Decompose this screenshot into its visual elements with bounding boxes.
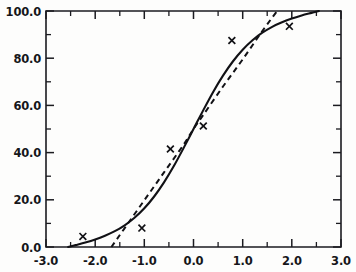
x-tick-label: 1.0 xyxy=(233,254,253,268)
series-layer xyxy=(68,11,319,247)
x-tick-label: -3.0 xyxy=(34,254,59,268)
x-tick-label: -1.0 xyxy=(132,254,157,268)
y-tick-label: 40.0 xyxy=(13,146,41,160)
plot-canvas: 100.0 80.0 60.0 40.0 20.0 0.0 -3.0 -2.0 … xyxy=(0,0,356,272)
data-point-marker xyxy=(138,225,145,232)
x-tick-label: 0.0 xyxy=(184,254,204,268)
data-point-marker xyxy=(167,146,174,153)
y-axis-ticks xyxy=(46,11,54,247)
x-tick-label: 2.0 xyxy=(282,254,302,268)
x-tick-label: 3.0 xyxy=(331,254,351,268)
x-tick-labels: -3.0 -2.0 -1.0 0.0 1.0 2.0 3.0 xyxy=(34,254,351,268)
y-tick-label: 20.0 xyxy=(13,193,41,207)
data-point-marker xyxy=(79,233,86,240)
y-tick-label: 100.0 xyxy=(6,5,42,19)
data-point-marker xyxy=(228,37,235,44)
y-tick-label: 60.0 xyxy=(13,99,41,113)
y-tick-label: 0.0 xyxy=(21,241,41,255)
y-axis-right-ticks xyxy=(333,11,341,247)
y-tick-labels: 100.0 80.0 60.0 40.0 20.0 0.0 xyxy=(6,5,42,255)
data-point-marker xyxy=(200,123,207,130)
y-tick-label: 80.0 xyxy=(13,52,41,66)
x-tick-label: -2.0 xyxy=(83,254,108,268)
chart-figure: 100.0 80.0 60.0 40.0 20.0 0.0 -3.0 -2.0 … xyxy=(0,0,356,272)
observed-data-points xyxy=(79,23,292,240)
data-point-marker xyxy=(286,23,293,30)
fitted-curve-solid xyxy=(68,11,319,247)
